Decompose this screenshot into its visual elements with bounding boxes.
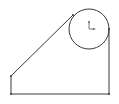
- tangent-line[interactable]: [11, 15, 73, 76]
- vertex-points: [10, 14, 110, 95]
- origin-axes-icon: [88, 20, 96, 30]
- sketch-canvas[interactable]: [0, 0, 119, 104]
